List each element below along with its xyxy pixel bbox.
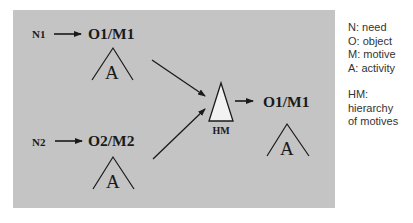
result-object-motive-label: O1/M1: [263, 93, 310, 110]
hierarchy-of-motives-triangle-icon: [209, 83, 233, 121]
legend-object: O: object: [348, 35, 398, 49]
activity-a-label: A: [105, 62, 119, 83]
object-motive-o1m1-label: O1/M1: [88, 25, 135, 42]
arrow-bottom-to-hm: [153, 109, 205, 159]
result-activity-a-label: A: [280, 138, 294, 159]
object-motive-o2m2-label: O2/M2: [88, 132, 135, 149]
legend-hm-term: HM:: [348, 88, 398, 102]
legend-motive: M: motive: [348, 48, 398, 62]
legend-definitions: N: need O: object M: motive A: activity: [348, 21, 398, 75]
hm-label: HM: [212, 125, 230, 136]
legend-activity: A: activity: [348, 62, 398, 76]
arrow-top-to-hm: [152, 60, 205, 96]
legend: N: need O: object M: motive A: activity …: [348, 21, 398, 142]
legend-hm-desc-1: hierarchy: [348, 102, 398, 116]
need-n2-label: N2: [32, 136, 46, 148]
legend-need: N: need: [348, 21, 398, 35]
activity-a-label: A: [106, 171, 120, 192]
legend-hm: HM: hierarchy of motives: [348, 88, 398, 129]
need-n1-label: N1: [32, 28, 45, 40]
legend-hm-desc-2: of motives: [348, 115, 398, 129]
